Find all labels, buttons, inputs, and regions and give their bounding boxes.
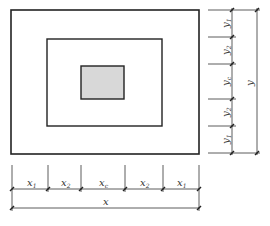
label-y1-bottom: y1 — [220, 135, 232, 145]
label-y1-top: y1 — [220, 19, 232, 29]
label-x1-right: x1 — [177, 177, 186, 189]
label-x2-left: x2 — [61, 177, 71, 189]
label-x-total: x — [103, 196, 109, 207]
x-dimension-labels: x1 x2 xc x2 x1 x — [27, 177, 186, 207]
label-y-total: y — [244, 80, 255, 87]
tolerance-zone-diagram: x1 x2 xc x2 x1 x y1 y2 yc y2 y1 y — [0, 0, 270, 226]
label-y2-bottom: y2 — [220, 107, 232, 118]
label-x2-right: x2 — [140, 177, 150, 189]
label-y2-top: y2 — [220, 45, 232, 56]
label-x1-left: x1 — [27, 177, 36, 189]
label-yc: yc — [220, 76, 232, 87]
inner-rectangle — [81, 66, 124, 99]
label-xc: xc — [99, 177, 109, 189]
